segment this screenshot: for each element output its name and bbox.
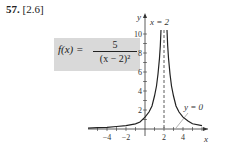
svg-text:x = 2: x = 2 bbox=[149, 17, 170, 27]
svg-text:x: x bbox=[203, 134, 208, 144]
svg-text:4: 4 bbox=[138, 87, 142, 96]
svg-text:10: 10 bbox=[134, 30, 142, 39]
svg-text:y: y bbox=[136, 12, 141, 22]
svg-text:6: 6 bbox=[138, 68, 142, 77]
svg-text:−4: −4 bbox=[103, 133, 112, 142]
svg-text:2: 2 bbox=[138, 106, 142, 115]
function-graph: −4 −2 2 4 2 4 6 8 10 y x x = 2 y = 0 bbox=[0, 0, 232, 152]
svg-text:y = 0: y = 0 bbox=[183, 102, 204, 112]
svg-text:4: 4 bbox=[181, 133, 185, 142]
svg-text:8: 8 bbox=[138, 49, 142, 58]
svg-text:−2: −2 bbox=[122, 133, 131, 142]
svg-text:2: 2 bbox=[162, 133, 166, 142]
